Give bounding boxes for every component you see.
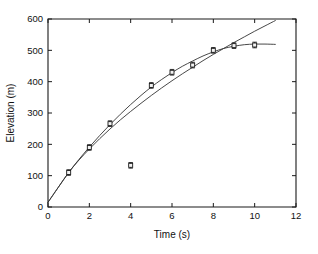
data-point-1 (87, 145, 91, 149)
x-axis-title: Time (s) (154, 229, 190, 240)
data-point-7 (211, 48, 215, 52)
data-point-0 (67, 171, 71, 175)
x-tick-label-6: 12 (291, 210, 302, 221)
x-tick-label-4: 8 (211, 210, 216, 221)
y-tick-label-6: 600 (27, 13, 43, 24)
data-point-3 (129, 163, 133, 167)
y-tick-label-5: 500 (27, 45, 43, 56)
data-point-4 (149, 83, 153, 87)
y-tick-label-2: 200 (27, 139, 43, 150)
y-tick-label-0: 0 (38, 201, 43, 212)
y-tick-label-1: 100 (27, 170, 43, 181)
data-point-2 (108, 122, 112, 126)
x-tick-label-3: 6 (169, 210, 174, 221)
data-point-5 (170, 70, 174, 74)
data-point-9 (253, 43, 257, 47)
x-tick-label-5: 10 (249, 210, 260, 221)
data-point-6 (191, 63, 195, 67)
chart-canvas: 024681012 0100200300400500600 Time (s) E… (0, 0, 318, 254)
y-axis-title: Elevation (m) (5, 84, 16, 143)
x-tick-label-1: 2 (87, 210, 92, 221)
data-point-8 (232, 44, 236, 48)
x-tick-label-0: 0 (45, 210, 50, 221)
y-tick-label-3: 300 (27, 107, 43, 118)
chart-figure: 024681012 0100200300400500600 Time (s) E… (0, 0, 318, 254)
x-tick-label-2: 4 (128, 210, 133, 221)
y-tick-label-4: 400 (27, 76, 43, 87)
